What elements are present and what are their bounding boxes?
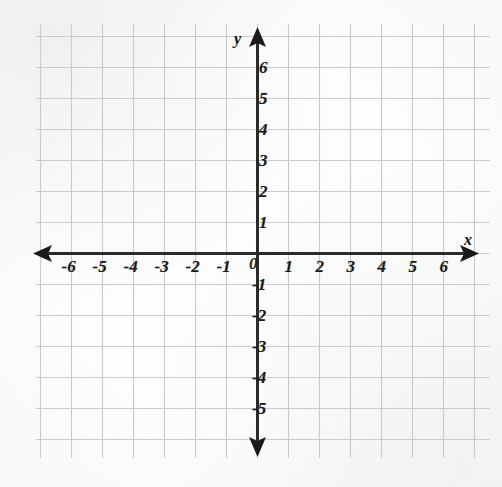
axis-lines (0, 0, 502, 487)
coordinate-plane-figure: y x 0 -6-5-4-3-2-1123456 654321-1-2-3-4-… (0, 0, 502, 487)
